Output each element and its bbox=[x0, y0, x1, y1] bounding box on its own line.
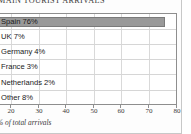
x-tick-label-20: 20 bbox=[3, 107, 19, 115]
bar-label-netherlands: Netherlands 2% bbox=[1, 77, 55, 88]
row-separator bbox=[0, 59, 176, 60]
bar-label-other: Other 8% bbox=[1, 92, 33, 103]
bar-label-uk: UK 7% bbox=[1, 31, 25, 42]
row-separator bbox=[0, 29, 176, 30]
x-tick-label-50: 50 bbox=[86, 107, 102, 115]
x-tick-label-80: 80 bbox=[169, 107, 185, 115]
row-separator bbox=[0, 44, 176, 45]
bar-label-germany: Germany 4% bbox=[1, 46, 45, 57]
x-axis-line bbox=[0, 104, 177, 105]
row-separator bbox=[0, 90, 176, 91]
x-tick-label-70: 70 bbox=[141, 107, 157, 115]
chart-figure: MAIN TOURIST ARRIVALS Spain 76% UK 7% Ge… bbox=[0, 0, 191, 132]
chart-title: MAIN TOURIST ARRIVALS bbox=[0, 0, 178, 6]
bar-label-spain: Spain 76% bbox=[1, 16, 38, 27]
x-axis-title: % of total arrivals bbox=[0, 118, 51, 127]
x-tick-label-30: 30 bbox=[31, 107, 47, 115]
bar-label-france: France 3% bbox=[1, 61, 38, 72]
row-separator bbox=[0, 74, 176, 75]
x-tick-label-60: 60 bbox=[113, 107, 129, 115]
x-tick-label-40: 40 bbox=[58, 107, 74, 115]
